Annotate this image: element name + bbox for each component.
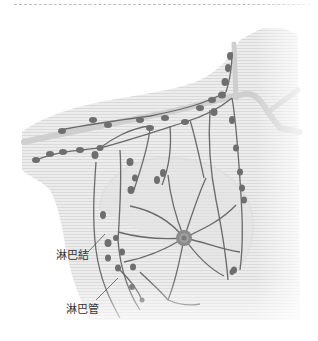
lymph-vessel-label: 淋巴管 [66,300,99,316]
lymph-node-label: 淋巴結 [56,246,89,262]
breast-lymphatic-diagram [0,0,318,341]
